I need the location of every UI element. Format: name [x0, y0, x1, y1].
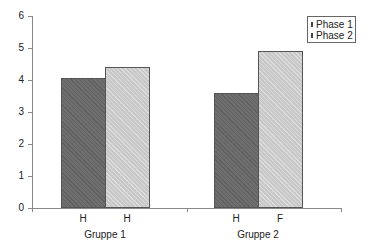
- y-tick: [28, 112, 32, 113]
- y-tick: [28, 48, 32, 49]
- bar-label: H: [117, 213, 137, 224]
- y-tick-label: 3: [10, 107, 24, 117]
- x-tick: [187, 208, 188, 212]
- category-label-gruppe1: Gruppe 1: [65, 229, 145, 240]
- y-tick-label: 4: [10, 75, 24, 85]
- bar-gruppe2-phase1: [214, 93, 259, 208]
- x-tick: [32, 208, 33, 212]
- y-tick-label: 6: [10, 11, 24, 21]
- y-axis: [32, 16, 33, 208]
- y-tick-label: 5: [10, 43, 24, 53]
- x-tick: [341, 208, 342, 212]
- legend: Phase 1 Phase 2: [307, 16, 356, 43]
- bar-gruppe2-phase2: [258, 51, 303, 208]
- legend-swatch-icon: [311, 22, 313, 27]
- y-tick: [28, 16, 32, 17]
- bar-gruppe1-phase2: [105, 67, 150, 208]
- bar-label: H: [226, 213, 246, 224]
- bar-label: F: [270, 213, 290, 224]
- y-tick: [28, 144, 32, 145]
- y-tick: [28, 80, 32, 81]
- y-tick-label: 0: [10, 203, 24, 213]
- legend-swatch-icon: [311, 33, 313, 38]
- category-label-gruppe2: Gruppe 2: [218, 229, 298, 240]
- legend-item-phase2: Phase 2: [311, 30, 352, 41]
- bar-label: H: [73, 213, 93, 224]
- y-tick: [28, 176, 32, 177]
- legend-label: Phase 2: [316, 30, 353, 41]
- legend-label: Phase 1: [316, 19, 353, 30]
- y-tick-label: 2: [10, 139, 24, 149]
- legend-item-phase1: Phase 1: [311, 19, 352, 30]
- y-tick-label: 1: [10, 171, 24, 181]
- bar-gruppe1-phase1: [61, 78, 106, 208]
